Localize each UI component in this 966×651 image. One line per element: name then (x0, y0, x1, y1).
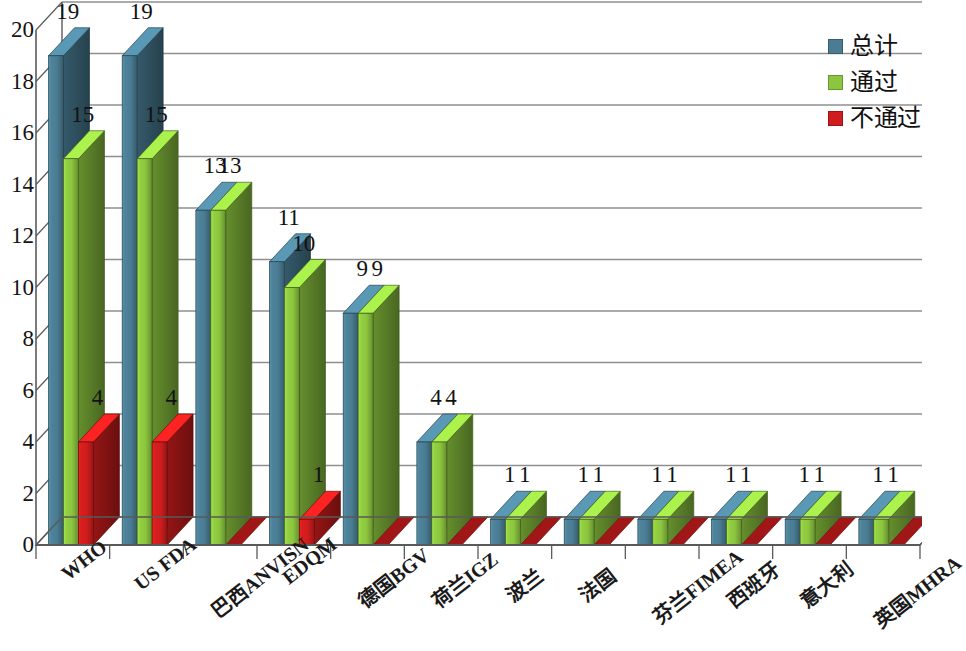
bar-value-label: 13 (218, 154, 241, 177)
bar-value-label: 1 (313, 463, 325, 486)
bar-value-label: 9 (372, 257, 384, 280)
bar-value-label: 15 (145, 103, 168, 126)
bar-value-label: 1 (519, 463, 531, 486)
bar-value-label: 19 (56, 0, 79, 23)
chart-legend: 总计通过不通过 (828, 28, 924, 136)
bar-value-label: 19 (130, 0, 153, 23)
legend-color-swatch (828, 39, 843, 54)
legend-color-swatch (828, 75, 843, 90)
y-axis: 20181614121086420 (0, 0, 34, 651)
y-axis-tick-label: 12 (4, 224, 34, 247)
bar-value-label: 1 (593, 463, 605, 486)
y-axis-tick-label: 4 (4, 430, 34, 453)
y-axis-tick-label: 20 (4, 18, 34, 41)
y-axis-tick-label: 2 (4, 482, 34, 505)
y-axis-tick-label: 14 (4, 173, 34, 196)
bar-value-label: 4 (430, 386, 442, 409)
bar-value-label: 1 (887, 463, 899, 486)
legend-item: 总计 (828, 28, 924, 64)
bar-value-label: 15 (71, 103, 94, 126)
y-axis-tick-label: 18 (4, 70, 34, 93)
bar-value-label: 1 (725, 463, 737, 486)
y-axis-tick-label: 16 (4, 121, 34, 144)
bar-value-label: 1 (578, 463, 590, 486)
bar-value-label: 4 (166, 386, 178, 409)
bar-value-label: 1 (666, 463, 678, 486)
bar-value-label: 1 (814, 463, 826, 486)
bar-value-label: 9 (357, 257, 369, 280)
bar-value-label: 1 (740, 463, 752, 486)
bar-value-label: 10 (292, 232, 315, 255)
bar-value-label: 4 (445, 386, 457, 409)
bar-value-label: 1 (799, 463, 811, 486)
legend-item: 不通过 (828, 100, 924, 136)
legend-label: 总计 (850, 34, 897, 58)
bar-value-label: 1 (504, 463, 516, 486)
y-axis-tick-label: 6 (4, 379, 34, 402)
legend-label: 不通过 (850, 106, 921, 130)
bar-value-label: 1 (872, 463, 884, 486)
legend-color-swatch (828, 111, 843, 126)
legend-item: 通过 (828, 64, 924, 100)
legend-label: 通过 (850, 70, 897, 94)
bar-value-label: 1 (651, 463, 663, 486)
bar-value-label: 4 (92, 386, 104, 409)
bar-value-label: 11 (278, 206, 300, 229)
y-axis-tick-label: 8 (4, 327, 34, 350)
y-axis-tick-label: 0 (4, 533, 34, 556)
y-axis-tick-label: 10 (4, 276, 34, 299)
